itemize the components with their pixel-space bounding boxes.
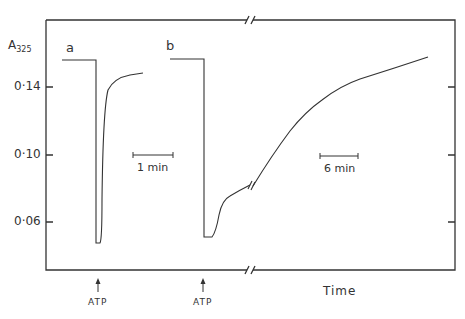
trace-a-label: a xyxy=(66,40,74,55)
axis-frame xyxy=(46,20,455,270)
y-ticks-left xyxy=(46,87,53,222)
trace-b xyxy=(170,59,250,237)
trace-a xyxy=(62,60,143,243)
arrowhead-b xyxy=(201,278,206,284)
ytick-label-014: 0·14 xyxy=(14,79,41,93)
arrowhead-a xyxy=(96,278,101,284)
scale-label-1min: 1 min xyxy=(137,161,168,174)
x-axis-label: Time xyxy=(323,284,356,298)
trace-b-label: b xyxy=(166,38,174,53)
ytick-label-006: 0·06 xyxy=(14,214,41,228)
scale-bar-6min xyxy=(320,153,358,159)
scale-label-6min: 6 min xyxy=(324,162,355,175)
y-ticks-right xyxy=(448,87,455,222)
scale-bar-1min xyxy=(133,152,173,158)
atp-label-b: ATP xyxy=(193,297,212,307)
ytick-label-010: 0·10 xyxy=(14,147,41,161)
atp-label-a: ATP xyxy=(88,297,107,307)
y-axis-label: A325 xyxy=(8,38,32,54)
axis-break-top xyxy=(245,16,255,24)
axis-break-bottom xyxy=(245,266,255,274)
